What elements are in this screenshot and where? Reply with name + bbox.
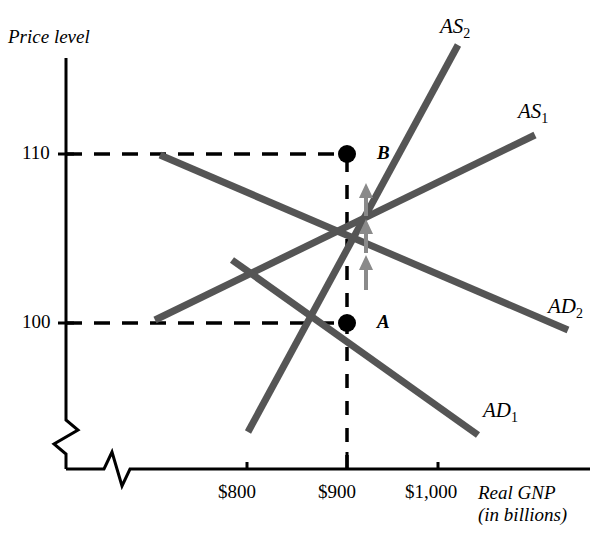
x-axis-title: Real GNP (in billions): [478, 482, 567, 526]
y-tick-label-100: 100: [22, 312, 51, 331]
curve-label-as2: AS2: [440, 16, 470, 41]
x-axis-title-line1: Real GNP: [478, 482, 567, 504]
curve-label-ad2: AD2: [548, 296, 583, 321]
y-tick-label-110: 110: [22, 143, 50, 162]
diagram-canvas: [0, 0, 599, 546]
x-axis-title-line2: (in billions): [478, 504, 567, 526]
point-label-a: A: [377, 312, 390, 331]
curve-label-ad1: AD1: [483, 400, 518, 425]
x-tick-label-1000: $1,000: [405, 482, 457, 501]
as-ad-diagram: Price level 110 100 $800 $900 $1,000 Rea…: [0, 0, 599, 546]
curve-label-ad1-sub: 1: [511, 410, 518, 425]
curve-label-as1: AS1: [518, 101, 548, 126]
x-axis-break-icon: [92, 452, 146, 486]
x-tick-label-800: $800: [218, 482, 256, 501]
y-axis-break-icon: [54, 400, 78, 469]
curve-label-as2-sub: 2: [463, 26, 470, 41]
curve-ad1: [232, 260, 478, 435]
x-tick-label-900: $900: [318, 482, 356, 501]
curve-label-as1-sub: 1: [541, 111, 548, 126]
point-label-b: B: [377, 143, 390, 162]
equilibrium-point-a: [338, 314, 356, 332]
curve-label-ad2-sub: 2: [576, 306, 583, 321]
up-arrow-icon: [359, 255, 373, 290]
curve-label-as2-base: AS: [440, 14, 463, 38]
equilibrium-point-b: [338, 145, 356, 163]
y-axis-title: Price level: [8, 27, 90, 46]
curve-label-ad2-base: AD: [548, 294, 576, 318]
curve-label-ad1-base: AD: [483, 398, 511, 422]
curve-label-as1-base: AS: [518, 99, 541, 123]
